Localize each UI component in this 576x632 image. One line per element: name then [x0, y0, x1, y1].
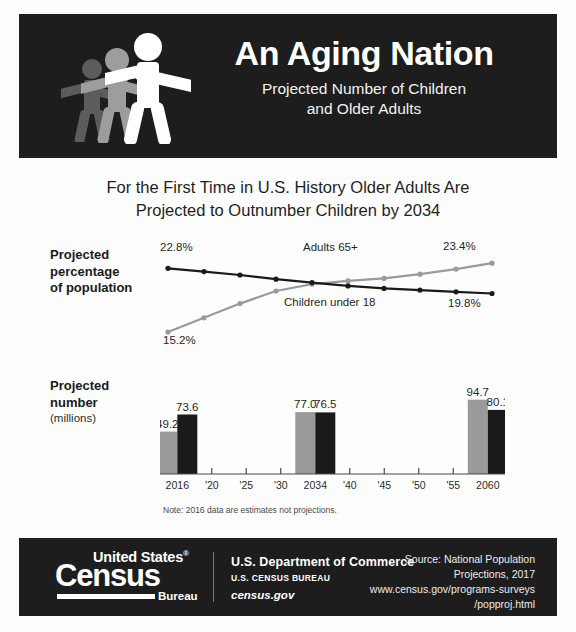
x-axis-tick-label: '45 — [377, 479, 391, 491]
data-point — [345, 283, 350, 288]
x-axis-tick-label: '30 — [274, 479, 288, 491]
annotation-adults-start-value: 15.2% — [163, 334, 196, 346]
data-point — [273, 288, 278, 293]
header-subtitle: Projected Number of Children and Older A… — [179, 79, 549, 119]
number-section-label: Projected number (millions) — [50, 378, 170, 426]
bar-chart: 49.273.677.076.594.780.1 2016'20'25'3020… — [160, 382, 505, 502]
registered-mark-icon: ® — [183, 549, 189, 558]
series-label-children-under-18: Children under 18 — [284, 296, 375, 308]
number-label-line1: Projected — [50, 378, 170, 395]
data-point — [417, 272, 422, 277]
logo-bureau-word: Bureau — [158, 590, 198, 602]
bar-value-label: 80.1 — [487, 396, 505, 408]
data-point — [453, 289, 458, 294]
page-title: An Aging Nation — [179, 36, 549, 72]
three-people-icon — [61, 32, 191, 144]
headline-line1: For the First Time in U.S. History Older… — [19, 176, 557, 199]
bar — [468, 400, 488, 474]
bar-chart-svg: 49.273.677.076.594.780.1 2016'20'25'3020… — [160, 382, 505, 502]
source-block: Source: National Population Projections,… — [320, 552, 535, 612]
x-axis-tick-labels: 2016'20'25'302034'40'45'50'552060 — [166, 479, 500, 491]
x-axis-tick-label: '20 — [205, 479, 219, 491]
source-line1: Source: National Population — [320, 552, 535, 567]
data-point — [165, 266, 170, 271]
data-point — [309, 280, 314, 285]
bar — [295, 412, 315, 474]
data-point — [489, 261, 494, 266]
bar-value-label: 49.2 — [160, 418, 178, 430]
infographic-page: An Aging Nation Projected Number of Chil… — [0, 0, 576, 632]
percent-label-line2: percentage — [50, 264, 170, 281]
data-point — [417, 288, 422, 293]
bar — [177, 415, 197, 475]
data-point — [201, 315, 206, 320]
data-point — [273, 277, 278, 282]
header-subtitle-line2: and Older Adults — [179, 99, 549, 119]
x-axis-tick-label: '55 — [446, 479, 460, 491]
number-label-line2: number — [50, 395, 170, 412]
headline: For the First Time in U.S. History Older… — [19, 176, 557, 222]
chart-note: Note: 2016 data are estimates not projec… — [163, 505, 337, 515]
source-line4[interactable]: /popproj.html — [320, 597, 535, 612]
percent-section-label: Projected percentage of population — [50, 247, 170, 297]
x-axis-tick-label: '50 — [412, 479, 426, 491]
source-line2: Projections, 2017 — [320, 567, 535, 582]
percent-label-line3: of population — [50, 280, 170, 297]
bar — [488, 410, 505, 474]
percent-label-line1: Projected — [50, 247, 170, 264]
series-label-adults-65-plus: Adults 65+ — [303, 241, 358, 253]
line-series-children-under-18 — [168, 268, 492, 293]
bar — [160, 432, 177, 474]
headline-line2: Projected to Outnumber Children by 2034 — [19, 199, 557, 222]
data-point — [453, 267, 458, 272]
annotation-children-end-value: 19.8% — [448, 297, 481, 309]
data-point — [237, 301, 242, 306]
bar-value-label: 76.5 — [314, 398, 336, 410]
x-axis-tick-label: 2016 — [166, 479, 190, 491]
data-point — [381, 286, 386, 291]
annotation-adults-end-value: 23.4% — [443, 240, 476, 252]
annotation-children-start-value: 22.8% — [160, 241, 193, 253]
x-axis-tick-label: '25 — [239, 479, 253, 491]
header-subtitle-line1: Projected Number of Children — [179, 79, 549, 99]
bar — [315, 412, 335, 474]
logo-census-word: Census — [55, 560, 160, 591]
bar-value-label: 73.6 — [176, 401, 198, 413]
data-point — [381, 276, 386, 281]
footer-banner: United States® Census Bureau U.S. Depart… — [19, 538, 557, 616]
header-banner: An Aging Nation Projected Number of Chil… — [19, 14, 557, 158]
source-line3[interactable]: www.census.gov/programs-surveys — [320, 582, 535, 597]
number-label-line3: (millions) — [50, 411, 170, 426]
x-axis-tick-label: 2060 — [476, 479, 500, 491]
census-bureau-logo: United States® Census Bureau — [55, 549, 195, 604]
data-point — [237, 272, 242, 277]
x-axis-tick-label: '40 — [343, 479, 357, 491]
data-point — [489, 291, 494, 296]
bar-group — [160, 400, 505, 474]
data-point — [345, 278, 350, 283]
header-title-block: An Aging Nation Projected Number of Chil… — [179, 36, 549, 118]
x-axis-tick-label: 2034 — [304, 479, 328, 491]
logo-rule — [57, 594, 155, 599]
data-point — [201, 269, 206, 274]
footer-divider — [213, 552, 214, 602]
